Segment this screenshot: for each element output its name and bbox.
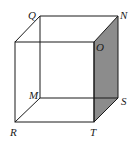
label-T: T	[90, 126, 97, 138]
label-M: M	[28, 89, 39, 101]
shaded-face-ONST	[94, 16, 118, 122]
cube-diagram: Q N O M S R T	[0, 0, 134, 144]
label-S: S	[121, 95, 127, 107]
label-Q: Q	[28, 9, 36, 21]
label-R: R	[9, 126, 17, 138]
label-N: N	[119, 9, 128, 21]
edge-MR	[15, 98, 40, 122]
label-O: O	[96, 41, 104, 53]
